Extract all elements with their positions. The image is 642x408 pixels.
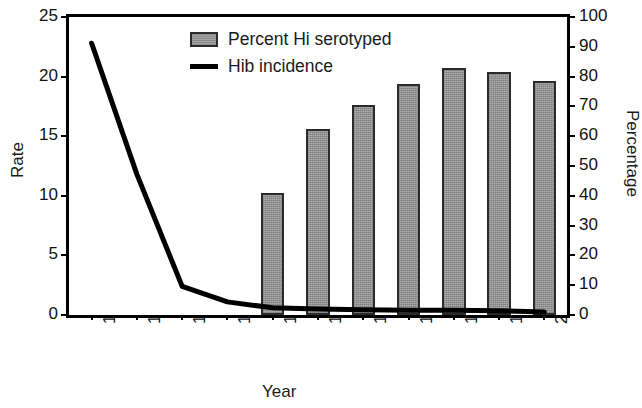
chart-legend: Percent Hi serotyped Hib incidence bbox=[190, 26, 391, 80]
y-axis-right-tick-label: 80 bbox=[579, 66, 619, 86]
y-axis-left-tick-label: 5 bbox=[24, 244, 58, 264]
legend-label: Percent Hi serotyped bbox=[228, 29, 391, 50]
y-axis-right-tick-label: 0 bbox=[579, 304, 619, 324]
y-axis-right-tick-label: 90 bbox=[579, 36, 619, 56]
y-axis-right-tick-label: 50 bbox=[579, 155, 619, 175]
y-axis-right-tick-label: 60 bbox=[579, 125, 619, 145]
x-axis-title: Year bbox=[262, 382, 296, 402]
y-axis-left-tick-label: 25 bbox=[24, 6, 58, 26]
line-swatch-icon bbox=[190, 64, 218, 69]
y-axis-right-tick-label: 30 bbox=[579, 215, 619, 235]
legend-item-hib-incidence: Hib incidence bbox=[190, 53, 391, 80]
y-axis-right-tick-label: 10 bbox=[579, 274, 619, 294]
y-axis-left-tick-label: 15 bbox=[24, 125, 58, 145]
bar-swatch-icon bbox=[190, 32, 218, 47]
legend-item-percent-hi-serotyped: Percent Hi serotyped bbox=[190, 26, 391, 53]
y-axis-right-tick-label: 40 bbox=[579, 185, 619, 205]
y-axis-right-tick-label: 100 bbox=[579, 6, 619, 26]
y-axis-left-tick-label: 10 bbox=[24, 185, 58, 205]
y-axis-right-tick-label: 20 bbox=[579, 244, 619, 264]
hib-incidence-line bbox=[92, 43, 545, 312]
y-axis-right-tick-label: 70 bbox=[579, 95, 619, 115]
y-axis-right-title: Percentage bbox=[622, 110, 642, 190]
y-axis-left-tick-label: 0 bbox=[24, 304, 58, 324]
y-axis-left-tick-label: 20 bbox=[24, 66, 58, 86]
legend-label: Hib incidence bbox=[228, 56, 333, 77]
